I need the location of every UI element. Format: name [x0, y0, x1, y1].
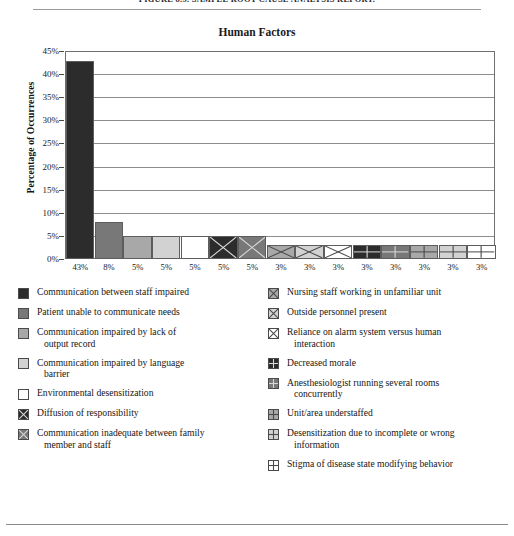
legend-swatch-icon [268, 328, 279, 339]
y-axis-tick-mark [59, 213, 64, 214]
legend-item-label: Desensitization due to incomplete or wro… [287, 427, 455, 450]
chart-legend: Communication between staff impairedPati… [0, 286, 514, 518]
x-axis-tick-label: 3% [267, 262, 296, 272]
bar-chart: Percentage of Occurrences 0%5%10%15%20%2… [0, 44, 514, 276]
legend-item-label: Anesthesiologist running several roomsco… [287, 377, 439, 400]
chart-title: Human Factors [0, 26, 514, 38]
y-axis-tick-mark [59, 74, 64, 75]
x-axis-tick-label: 5% [152, 262, 181, 272]
y-axis-tick-mark [59, 51, 64, 52]
bar [123, 236, 151, 259]
bar [353, 245, 381, 259]
y-axis-tick-labels: 0%5%10%15%20%25%30%35%40%45% [14, 51, 59, 259]
legend-item[interactable]: Environmental desensitization [18, 387, 268, 400]
legend-item[interactable]: Desensitization due to incomplete or wro… [268, 427, 510, 450]
legend-item[interactable]: Unit/area understaffed [268, 407, 510, 420]
legend-swatch-icon [268, 288, 279, 299]
bar [152, 236, 180, 259]
legend-item-label-continued: barrier [37, 368, 184, 380]
legend-item-label-continued: interaction [287, 338, 441, 350]
legend-item-label: Unit/area understaffed [287, 407, 373, 419]
bar [410, 245, 438, 259]
x-axis-tick-label: 8% [95, 262, 124, 272]
header-divider [33, 9, 481, 10]
bar [95, 222, 123, 259]
figure-caption-header: FIGURE 8.5. SAMPLE ROOT CAUSE ANALYSIS R… [0, 0, 514, 8]
legend-item-label: Communication impaired by lack ofoutput … [37, 326, 176, 349]
bar [295, 245, 323, 259]
x-axis-tick-label: 3% [439, 262, 468, 272]
bar [181, 236, 209, 259]
legend-item-label: Reliance on alarm system versus humanint… [287, 326, 441, 349]
bar [439, 245, 467, 259]
y-axis-tick-label: 25% [19, 138, 59, 148]
bar [324, 245, 352, 259]
bar [267, 245, 295, 259]
x-axis-tick-label: 3% [324, 262, 353, 272]
x-axis-tick-label: 43% [66, 262, 95, 272]
legend-item[interactable]: Communication impaired by lack ofoutput … [18, 326, 268, 349]
legend-item-label-continued: information [287, 439, 455, 451]
legend-item[interactable]: Outside personnel present [268, 306, 510, 319]
legend-item[interactable]: Diffusion of responsibility [18, 407, 268, 420]
legend-swatch-icon [268, 358, 279, 369]
bar [467, 245, 495, 259]
x-axis-tick-label: 3% [410, 262, 439, 272]
x-axis-tick-label: 5% [238, 262, 267, 272]
legend-swatch-icon [18, 288, 29, 299]
y-axis-tick-mark [59, 167, 64, 168]
legend-item-label-continued: concurrently [287, 388, 439, 400]
legend-item-label: Patient unable to communicate needs [37, 306, 180, 318]
y-axis-tick-mark [59, 97, 64, 98]
x-axis-tick-label: 5% [181, 262, 210, 272]
legend-item[interactable]: Nursing staff working in unfamiliar unit [268, 286, 510, 299]
legend-item[interactable]: Communication between staff impaired [18, 286, 268, 299]
x-axis-tick-label: 3% [467, 262, 496, 272]
legend-item[interactable]: Stigma of disease state modifying behavi… [268, 458, 510, 471]
x-axis-tick-label: 3% [295, 262, 324, 272]
bar [381, 245, 409, 259]
legend-swatch-icon [268, 308, 279, 319]
legend-item-label: Communication inadequate between familym… [37, 427, 205, 450]
legend-item-label: Communication between staff impaired [37, 286, 189, 298]
y-axis-tick-mark [59, 143, 64, 144]
legend-swatch-icon [268, 429, 279, 440]
legend-item-label: Communication impaired by languagebarrie… [37, 357, 184, 380]
legend-item[interactable]: Patient unable to communicate needs [18, 306, 268, 319]
x-axis-tick-label: 5% [209, 262, 238, 272]
legend-swatch-icon [268, 378, 279, 389]
y-axis-tick-label: 20% [19, 162, 59, 172]
y-axis-tick-mark [59, 120, 64, 121]
figure-caption: FIGURE 8.5. SAMPLE ROOT CAUSE ANALYSIS R… [0, 0, 514, 4]
legend-item-label: Diffusion of responsibility [37, 407, 139, 419]
legend-item-label: Nursing staff working in unfamiliar unit [287, 286, 441, 298]
legend-swatch-icon [18, 358, 29, 369]
x-axis-tick-label: 5% [123, 262, 152, 272]
legend-item-label: Outside personnel present [287, 306, 387, 318]
footer-divider [6, 524, 508, 525]
bar [238, 236, 266, 259]
y-axis-tick-label: 40% [19, 69, 59, 79]
y-axis-tick-label: 0% [19, 254, 59, 264]
bar [66, 61, 94, 259]
y-axis-tick-mark [59, 236, 64, 237]
y-axis-tick-label: 45% [19, 46, 59, 56]
legend-item-label: Environmental desensitization [37, 387, 153, 399]
y-axis-tick-mark [59, 259, 64, 260]
legend-column-right: Nursing staff working in unfamiliar unit… [268, 286, 510, 478]
legend-item[interactable]: Communication impaired by languagebarrie… [18, 357, 268, 380]
bar-series [66, 52, 494, 259]
legend-item-label-continued: output record [37, 338, 176, 350]
y-axis-tick-label: 30% [19, 115, 59, 125]
legend-swatch-icon [18, 409, 29, 420]
legend-item[interactable]: Communication inadequate between familym… [18, 427, 268, 450]
legend-column-left: Communication between staff impairedPati… [18, 286, 268, 458]
legend-item[interactable]: Decreased morale [268, 357, 510, 370]
legend-item[interactable]: Reliance on alarm system versus humanint… [268, 326, 510, 349]
legend-item[interactable]: Anesthesiologist running several roomsco… [268, 377, 510, 400]
legend-swatch-icon [18, 308, 29, 319]
legend-item-label: Stigma of disease state modifying behavi… [287, 458, 453, 470]
x-axis-tick-label: 3% [353, 262, 382, 272]
legend-item-label: Decreased morale [287, 357, 356, 369]
y-axis-tick-mark [59, 190, 64, 191]
